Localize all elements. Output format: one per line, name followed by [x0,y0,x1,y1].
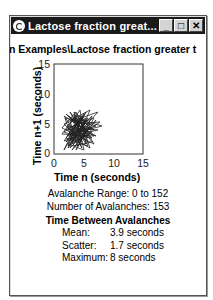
svg-text:10: 10 [108,157,120,169]
time-between-heading: Time Between Avalanches [10,214,206,227]
x-axis-label: Time n (seconds) [54,171,140,183]
stat-value: 8 seconds [110,252,156,265]
svg-text:5: 5 [44,118,50,130]
x-tick-labels: 0 5 10 15 [51,157,149,169]
stat-label: Maximum: [62,252,110,265]
stat-row-scatter: Scatter: 1.7 seconds [10,240,206,253]
svg-text:5: 5 [81,157,87,169]
svg-text:0: 0 [51,157,57,169]
stat-label: Mean: [62,227,110,240]
stat-row-mean: Mean: 3.9 seconds [10,227,206,240]
stat-value: 3.9 seconds [110,227,164,240]
y-axis-label: Time n+1 (seconds) [31,75,43,165]
svg-text:0: 0 [44,147,50,159]
svg-text:15: 15 [137,157,149,169]
app-window: Lactose fraction great... _ □ ✕ n Exampl… [9,15,207,296]
stat-value: 1.7 seconds [110,240,164,253]
avalanche-stats: Avalanche Range: 0 to 152 Number of Aval… [10,187,206,265]
avalanche-count: Number of Avalanches: 153 [10,200,206,213]
stat-row-maximum: Maximum: 8 seconds [10,252,206,265]
stat-label: Scatter: [62,240,110,253]
avalanche-range: Avalanche Range: 0 to 152 [10,187,206,200]
